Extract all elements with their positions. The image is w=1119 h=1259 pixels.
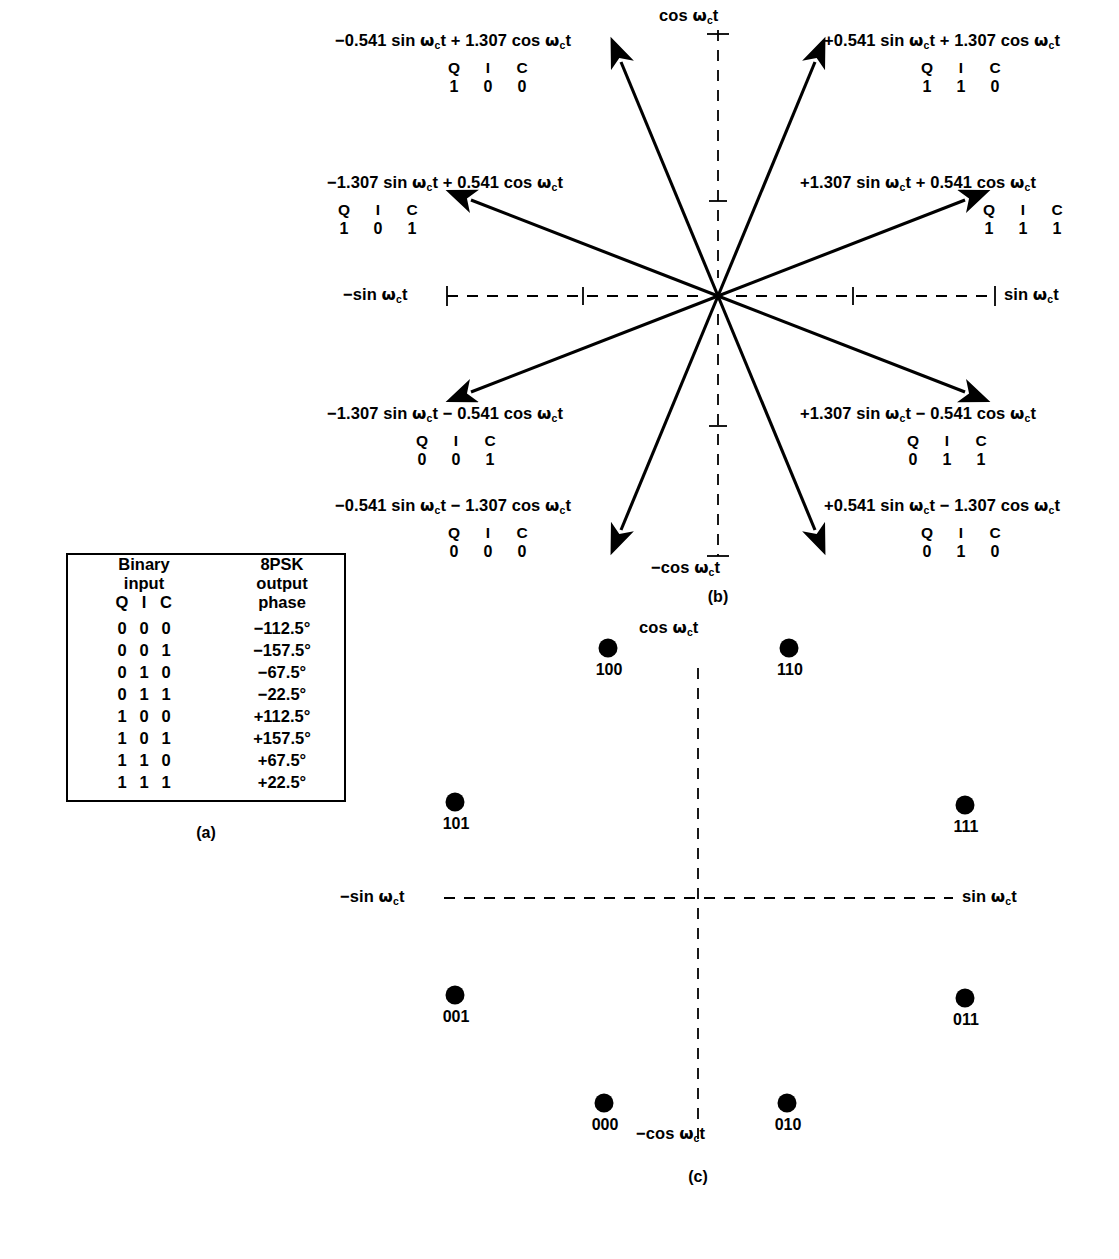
const-dot-000 [595,1094,614,1113]
qic-i: 1 [944,77,978,96]
const-label-011: 011 [942,1010,990,1029]
qic-value-row: 0 0 0 [437,542,571,561]
qic-header-i: I [930,431,964,450]
qic-header-row: Q I C [896,431,1036,450]
qic-header-q: Q [972,200,1006,219]
const-dot-010 [778,1094,797,1113]
qic-q: 0 [437,542,471,561]
const-axis-label-up: cos ωct [639,618,698,638]
qic-value-row: 0 0 1 [405,450,563,469]
phasor-label-110: +0.541 sin ωct + 1.307 cos ωct Q I C 1 1… [824,31,1060,96]
qic-value-row: 0 1 1 [896,450,1036,469]
phasor-expr-100: −0.541 sin ωct + 1.307 cos ωct [335,31,571,51]
qic-i: 0 [471,542,505,561]
qic-value-row: 1 0 0 [437,77,571,96]
qic-header-q: Q [910,58,944,77]
phasor-arrow-100 [621,62,718,296]
const-label-001: 001 [432,1007,480,1026]
qic-q: 1 [910,77,944,96]
qic-c: 0 [505,77,539,96]
qic-i: 0 [439,450,473,469]
qic-header-row: Q I C [405,431,563,450]
qic-header-row: Q I C [910,523,1060,542]
phasor-label-010: +0.541 sin ωct − 1.307 cos ωct Q I C 0 1… [824,496,1060,561]
const-axis-label-right: sin ωct [962,887,1017,907]
phasor-axis-label-left: −sin ωct [343,285,408,305]
const-dot-100 [599,639,618,658]
qic-c: 0 [505,542,539,561]
phasor-expr-111: +1.307 sin ωct + 0.541 cos ωct [800,173,1074,193]
phasor-qic-010: Q I C 0 1 0 [910,523,1060,561]
qic-i: 1 [930,450,964,469]
qic-header-i: I [944,523,978,542]
qic-header-q: Q [437,58,471,77]
phasor-expr-010: +0.541 sin ωct − 1.307 cos ωct [824,496,1060,516]
phasor-label-001: −1.307 sin ωct − 0.541 cos ωct Q I C 0 0… [327,404,563,469]
qic-q: 0 [405,450,439,469]
const-dot-101 [446,793,465,812]
phasor-expr-001: −1.307 sin ωct − 0.541 cos ωct [327,404,563,424]
qic-header-row: Q I C [437,58,571,77]
const-dot-001 [446,986,465,1005]
qic-header-c: C [1040,200,1074,219]
qic-header-i: I [1006,200,1040,219]
phasor-qic-001: Q I C 0 0 1 [405,431,563,469]
phasor-expr-110: +0.541 sin ωct + 1.307 cos ωct [824,31,1060,51]
qic-header-c: C [505,523,539,542]
qic-q: 0 [910,542,944,561]
qic-q: 0 [896,450,930,469]
qic-header-i: I [471,523,505,542]
phasor-expr-011: +1.307 sin ωct − 0.541 cos ωct [800,404,1036,424]
caption-b: (b) [682,588,754,606]
const-label-000: 000 [581,1115,629,1134]
const-label-110: 110 [766,660,814,679]
phasor-qic-111: Q I C 1 1 1 [972,200,1074,238]
phasor-axis-label-right: sin ωct [1004,285,1059,305]
const-dot-011 [956,989,975,1008]
const-dot-110 [780,639,799,658]
qic-header-c: C [964,431,998,450]
qic-value-row: 0 1 0 [910,542,1060,561]
constellation-diagram-c: cos ωct −cos ωct −sin ωct sin ωct 100 11… [0,620,1119,1259]
phasor-qic-100: Q I C 1 0 0 [437,58,571,96]
phasor-label-101: −1.307 sin ωct + 0.541 cos ωct Q I C 1 0… [327,173,563,238]
qic-header-c: C [978,58,1012,77]
qic-header-c: C [978,523,1012,542]
qic-header-c: C [473,431,507,450]
qic-c: 1 [964,450,998,469]
qic-header-row: Q I C [972,200,1074,219]
qic-value-row: 1 1 1 [972,219,1074,238]
phasor-label-111: +1.307 sin ωct + 0.541 cos ωct Q I C 1 1… [800,173,1074,238]
qic-header-c: C [505,58,539,77]
const-axis-label-down: −cos ωct [636,1124,705,1144]
phasor-label-000: −0.541 sin ωct − 1.307 cos ωct Q I C 0 0… [335,496,571,561]
const-label-010: 010 [764,1115,812,1134]
qic-value-row: 1 1 0 [910,77,1060,96]
phasor-label-100: −0.541 sin ωct + 1.307 cos ωct Q I C 1 0… [335,31,571,96]
qic-c: 0 [978,542,1012,561]
phasor-diagram-b: cos ωct −cos ωct −sin ωct sin ωct −0.541… [0,0,1119,600]
qic-header-q: Q [327,200,361,219]
qic-i: 0 [361,219,395,238]
phasor-expr-000: −0.541 sin ωct − 1.307 cos ωct [335,496,571,516]
const-label-111: 111 [942,817,990,836]
qic-q: 1 [327,219,361,238]
qic-header-i: I [361,200,395,219]
qic-c: 0 [978,77,1012,96]
qic-c: 1 [473,450,507,469]
qic-header-q: Q [910,523,944,542]
qic-header-i: I [471,58,505,77]
phasor-qic-110: Q I C 1 1 0 [910,58,1060,96]
qic-i: 0 [471,77,505,96]
const-label-101: 101 [432,814,480,833]
const-axis-label-left: −sin ωct [340,887,405,907]
qic-header-row: Q I C [327,200,563,219]
phasor-axis-label-up: cos ωct [659,6,718,26]
phasor-axis-label-down: −cos ωct [651,558,720,578]
qic-header-row: Q I C [437,523,571,542]
qic-header-i: I [944,58,978,77]
phasor-arrow-001 [471,296,718,392]
qic-header-i: I [439,431,473,450]
qic-q: 1 [972,219,1006,238]
qic-c: 1 [395,219,429,238]
